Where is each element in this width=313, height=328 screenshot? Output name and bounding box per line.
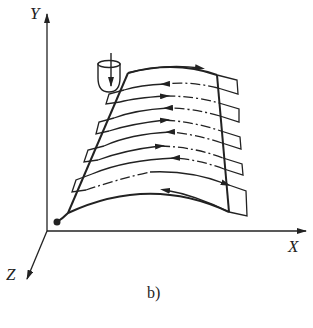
toolpath-diagram: Y X Z b) xyxy=(0,0,313,328)
z-axis xyxy=(27,231,47,279)
x-axis-label: X xyxy=(288,238,298,255)
figure-caption: b) xyxy=(147,285,160,301)
surface-boundaries xyxy=(68,73,229,213)
ball-end-mill-icon xyxy=(98,53,120,92)
diagram-graphics xyxy=(0,0,313,328)
z-axis-label: Z xyxy=(6,266,15,283)
y-axis-label: Y xyxy=(30,5,39,22)
start-dot-icon xyxy=(54,219,61,226)
